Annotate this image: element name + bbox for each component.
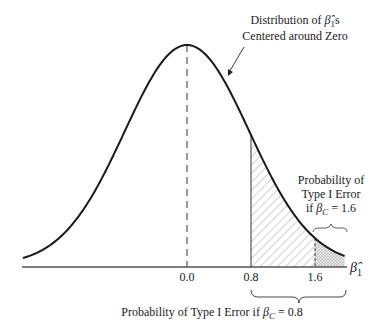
brace-small xyxy=(313,224,347,232)
type-one-error-1-6-annotation: Probability of Type I Error if βC = 1.6 xyxy=(298,173,364,232)
type-one-error-diagram: 0.0 0.8 1.6 β̂1 Distribution of β̂1s Cen… xyxy=(0,0,379,329)
tick-label: 0.8 xyxy=(244,270,259,284)
annotation-line: Type I Error xyxy=(301,187,360,201)
distribution-annotation: Distribution of β̂1s Centered around Zer… xyxy=(228,13,348,76)
annotation-arrow-line xyxy=(228,47,244,74)
distribution-annotation-line2: Centered around Zero xyxy=(242,29,347,43)
type-one-error-0-8-annotation: Probability of Type I Error if βC = 0.8 xyxy=(121,290,346,321)
annotation-line: if βC = 1.6 xyxy=(306,201,356,217)
tick-label: 0.0 xyxy=(180,270,195,284)
axis-variable-label: β̂1 xyxy=(349,260,363,278)
tick-label: 1.6 xyxy=(308,270,323,284)
annotation-line: Probability of xyxy=(298,173,364,187)
distribution-annotation-line1: Distribution of β̂1s xyxy=(250,13,339,29)
brace-large xyxy=(251,290,346,303)
annotation-line: Probability of Type I Error if βC = 0.8 xyxy=(121,305,302,321)
